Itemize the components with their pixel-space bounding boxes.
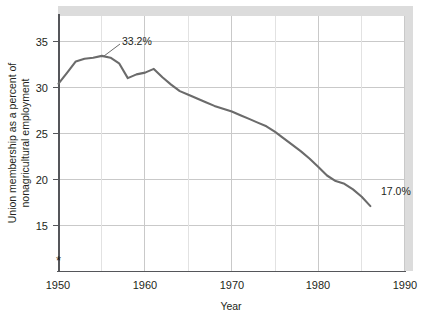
chart-figure: 35 30 25 20 15 1950 1960 1970 1980 1990 … — [0, 0, 441, 320]
y-tick-label-15: 15 — [36, 220, 48, 232]
y-tick-label-20: 20 — [36, 174, 48, 186]
y-axis-title-line1: Union membership as a percent of — [6, 63, 18, 224]
x-tick-label-1990: 1990 — [393, 279, 417, 291]
top-shadow-band — [58, 6, 413, 16]
y-axis-title-line2: nonagricultural employment — [19, 78, 31, 207]
x-tick-label-1960: 1960 — [133, 279, 157, 291]
y-tick-label-35: 35 — [36, 36, 48, 48]
annotation-label-peak: 33.2% — [122, 35, 152, 47]
x-tick-label-1950: 1950 — [46, 279, 70, 291]
x-axis-title: Year — [220, 300, 242, 312]
y-tick-label-30: 30 — [36, 82, 48, 94]
right-shadow-band — [405, 6, 413, 271]
annotation-label-end: 17.0% — [381, 185, 411, 197]
y-tick-label-25: 25 — [36, 128, 48, 140]
x-tick-label-1980: 1980 — [306, 279, 330, 291]
asterisk-footnote-marker: * — [56, 253, 61, 268]
union-membership-line-chart: 35 30 25 20 15 1950 1960 1970 1980 1990 … — [0, 0, 441, 320]
x-tick-label-1970: 1970 — [220, 279, 244, 291]
